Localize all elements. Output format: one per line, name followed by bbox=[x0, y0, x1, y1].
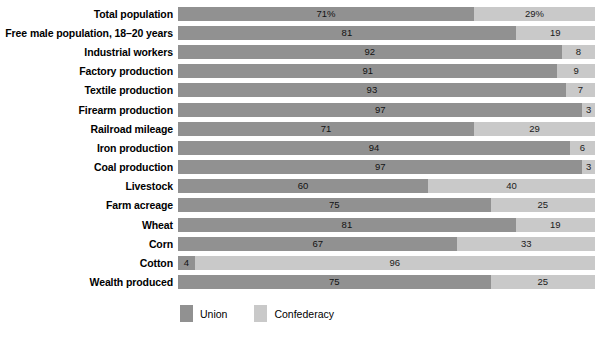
chart-row: Free male population, 18–20 years8119 bbox=[0, 23, 604, 42]
bar-track: 928 bbox=[178, 45, 595, 59]
chart-row: Factory production919 bbox=[0, 62, 604, 81]
bar-segment-confederacy: 19 bbox=[516, 26, 595, 40]
bar-segment-union: 92 bbox=[178, 45, 562, 59]
row-category-label: Free male population, 18–20 years bbox=[0, 27, 178, 39]
row-category-label: Corn bbox=[0, 238, 178, 250]
bar-value-union: 4 bbox=[184, 256, 189, 270]
legend-label: Confederacy bbox=[274, 308, 334, 320]
bar-value-confederacy: 96 bbox=[390, 256, 401, 270]
bar-value-confederacy: 3 bbox=[586, 103, 591, 117]
legend-item: Confederacy bbox=[254, 305, 334, 322]
bar-segment-union: 4 bbox=[178, 256, 195, 270]
chart-row: Corn6733 bbox=[0, 234, 604, 253]
bar-segment-union: 81 bbox=[178, 218, 516, 232]
bar-segment-union: 75 bbox=[178, 198, 491, 212]
row-category-label: Livestock bbox=[0, 180, 178, 192]
chart-row: Total population71%29% bbox=[0, 4, 604, 23]
chart-row: Railroad mileage7129 bbox=[0, 119, 604, 138]
bar-segment-union: 75 bbox=[178, 275, 491, 289]
bar-segment-union: 71 bbox=[178, 122, 474, 136]
bar-segment-union: 93 bbox=[178, 83, 566, 97]
row-category-label: Textile production bbox=[0, 84, 178, 96]
bar-segment-confederacy: 29 bbox=[474, 122, 595, 136]
row-category-label: Cotton bbox=[0, 257, 178, 269]
bar-value-union: 75 bbox=[329, 198, 340, 212]
bar-track: 6733 bbox=[178, 237, 595, 251]
bar-value-union: 92 bbox=[365, 45, 376, 59]
chart-row: Coal production973 bbox=[0, 158, 604, 177]
bar-segment-union: 97 bbox=[178, 103, 582, 117]
bar-track: 946 bbox=[178, 141, 595, 155]
legend-swatch-union bbox=[180, 305, 193, 322]
row-category-label: Total population bbox=[0, 8, 178, 20]
row-category-label: Iron production bbox=[0, 142, 178, 154]
bar-value-confederacy: 25 bbox=[538, 275, 549, 289]
bar-value-confederacy: 3 bbox=[586, 160, 591, 174]
bar-value-confederacy: 29% bbox=[525, 7, 544, 21]
legend-swatch-confederacy bbox=[254, 305, 267, 322]
chart-legend: UnionConfederacy bbox=[0, 305, 604, 322]
bar-value-confederacy: 9 bbox=[574, 64, 579, 78]
bar-track: 7129 bbox=[178, 122, 595, 136]
bar-segment-union: 91 bbox=[178, 64, 557, 78]
bar-segment-union: 94 bbox=[178, 141, 570, 155]
row-category-label: Wealth produced bbox=[0, 276, 178, 288]
bar-value-union: 71 bbox=[321, 122, 332, 136]
bar-value-union: 97 bbox=[375, 103, 386, 117]
row-category-label: Industrial workers bbox=[0, 46, 178, 58]
bar-segment-confederacy: 19 bbox=[516, 218, 595, 232]
row-category-label: Firearm production bbox=[0, 104, 178, 116]
bar-segment-union: 60 bbox=[178, 179, 428, 193]
chart-row: Industrial workers928 bbox=[0, 42, 604, 61]
bar-value-union: 67 bbox=[312, 237, 323, 251]
bar-value-union: 60 bbox=[298, 179, 309, 193]
legend-item: Union bbox=[180, 305, 227, 322]
bar-value-union: 71% bbox=[317, 7, 336, 21]
bar-segment-confederacy: 25 bbox=[491, 275, 595, 289]
row-category-label: Coal production bbox=[0, 161, 178, 173]
bar-value-confederacy: 6 bbox=[580, 141, 585, 155]
row-category-label: Factory production bbox=[0, 65, 178, 77]
bar-value-confederacy: 29 bbox=[529, 122, 540, 136]
chart-row: Textile production937 bbox=[0, 81, 604, 100]
chart-rows: Total population71%29%Free male populati… bbox=[0, 4, 604, 292]
bar-value-union: 97 bbox=[375, 160, 386, 174]
bar-track: 8119 bbox=[178, 26, 595, 40]
bar-value-confederacy: 40 bbox=[506, 179, 517, 193]
bar-value-confederacy: 7 bbox=[578, 83, 583, 97]
bar-segment-union: 67 bbox=[178, 237, 457, 251]
bar-segment-union: 71% bbox=[178, 7, 474, 21]
bar-segment-union: 97 bbox=[178, 160, 582, 174]
bar-track: 8119 bbox=[178, 218, 595, 232]
bar-track: 919 bbox=[178, 64, 595, 78]
bar-value-confederacy: 8 bbox=[576, 45, 581, 59]
chart-row: Wheat8119 bbox=[0, 215, 604, 234]
bar-segment-confederacy: 96 bbox=[195, 256, 595, 270]
bar-track: 937 bbox=[178, 83, 595, 97]
bar-value-union: 93 bbox=[367, 83, 378, 97]
chart-row: Farm acreage7525 bbox=[0, 196, 604, 215]
bar-track: 6040 bbox=[178, 179, 595, 193]
bar-segment-confederacy: 3 bbox=[582, 160, 595, 174]
stacked-bar-chart: Total population71%29%Free male populati… bbox=[0, 0, 604, 337]
bar-value-confederacy: 19 bbox=[550, 26, 561, 40]
bar-segment-confederacy: 40 bbox=[428, 179, 595, 193]
bar-value-union: 94 bbox=[369, 141, 380, 155]
bar-track: 71%29% bbox=[178, 7, 595, 21]
bar-value-union: 81 bbox=[342, 26, 353, 40]
bar-segment-confederacy: 9 bbox=[557, 64, 595, 78]
bar-value-confederacy: 33 bbox=[521, 237, 532, 251]
bar-segment-confederacy: 25 bbox=[491, 198, 595, 212]
bar-segment-confederacy: 7 bbox=[566, 83, 595, 97]
bar-segment-confederacy: 29% bbox=[474, 7, 595, 21]
bar-value-confederacy: 19 bbox=[550, 218, 561, 232]
chart-row: Iron production946 bbox=[0, 138, 604, 157]
bar-segment-union: 81 bbox=[178, 26, 516, 40]
bar-value-confederacy: 25 bbox=[538, 198, 549, 212]
bar-segment-confederacy: 3 bbox=[582, 103, 595, 117]
bar-segment-confederacy: 33 bbox=[457, 237, 595, 251]
chart-row: Livestock6040 bbox=[0, 177, 604, 196]
chart-row: Wealth produced7525 bbox=[0, 273, 604, 292]
chart-row: Cotton496 bbox=[0, 253, 604, 272]
bar-track: 973 bbox=[178, 160, 595, 174]
